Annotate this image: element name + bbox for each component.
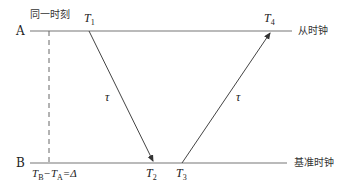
same-moment-label: 同一时刻	[30, 10, 70, 20]
clock-b-label: B	[16, 157, 25, 169]
tau-right-label: τ	[236, 91, 240, 103]
clock-a-label: A	[16, 25, 25, 37]
tau-left-label: τ	[105, 91, 109, 103]
reference-clock-label: 基准时钟	[294, 158, 334, 168]
slave-clock-label: 从时钟	[298, 26, 328, 36]
t2-label: T2	[146, 167, 157, 182]
t4-label: T4	[264, 12, 275, 27]
t3-label: T3	[176, 167, 187, 182]
message-arrow-t3-t4	[182, 33, 270, 163]
offset-equation-label: TB−TA=Δ	[32, 168, 77, 182]
message-arrow-t1-t2	[89, 31, 153, 161]
t1-label: T1	[84, 12, 95, 27]
